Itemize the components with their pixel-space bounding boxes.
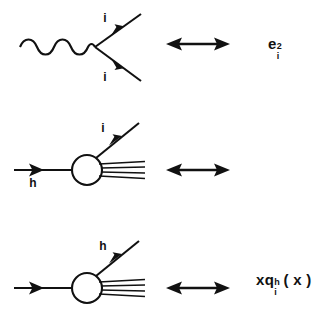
fermion-leg-upper-label: i [103, 11, 106, 25]
remnant-line [99, 176, 145, 179]
figure-row-structure: h i xqhi( x ) [0, 104, 328, 212]
figure-root: i i e2i h i [0, 0, 328, 318]
struck-quark-label: i [101, 121, 104, 135]
remnant-line [101, 167, 145, 168]
remnant-line [101, 172, 145, 173]
formula-coupling-base: e [268, 35, 277, 52]
struck-quark-arrowhead [109, 134, 122, 145]
remnant-line [101, 290, 145, 291]
outgoing-hadron-arrowhead [109, 252, 122, 263]
fermion-leg-lower-label: i [103, 70, 106, 84]
remnant-line [99, 294, 145, 297]
photon-wavy-line [20, 40, 95, 55]
formula-coupling-superscript: 2 [277, 42, 282, 51]
incoming-hadron-label: h [29, 176, 36, 190]
coupling-diagram: i i [0, 0, 160, 104]
formula-coupling: e2i [268, 36, 286, 51]
hadron-blob [72, 273, 102, 303]
fermion-leg-lower-arrowhead [111, 59, 124, 71]
relation-arrow-fragment [160, 212, 240, 318]
remnant-line [99, 280, 145, 283]
fragment-diagram: h [0, 212, 160, 318]
relation-arrow-coupling [160, 0, 240, 104]
formula-coupling-subscript: i [277, 52, 280, 61]
hadron-blob [72, 155, 102, 185]
fermion-leg-upper-arrowhead [111, 24, 124, 35]
figure-row-fragment: h zDhqi( z ) [0, 212, 328, 318]
remnant-line [99, 162, 145, 165]
remnant-line [101, 285, 145, 286]
structure-diagram: h i [0, 104, 160, 212]
figure-row-coupling: i i e2i [0, 0, 328, 104]
relation-arrow-structure [160, 104, 240, 212]
outgoing-hadron-label: h [99, 239, 106, 253]
